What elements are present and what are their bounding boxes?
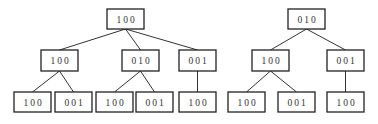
nodes: 1001000100011000011000011000101000011000… [14, 9, 364, 112]
node-label: 100 [188, 98, 208, 108]
tree-edge [33, 71, 60, 92]
node-label: 100 [50, 56, 70, 66]
node-label: 010 [131, 56, 151, 66]
tree-node: 100 [179, 92, 216, 112]
tree-node: 100 [228, 92, 265, 112]
node-label: 100 [336, 98, 356, 108]
tree-node: 001 [55, 92, 92, 112]
tree-node: 100 [107, 9, 144, 29]
tree-edge [60, 71, 74, 92]
tree-node: 100 [14, 92, 51, 112]
tree-node: 010 [288, 9, 325, 29]
node-label: 100 [105, 98, 125, 108]
tree-node: 100 [41, 50, 78, 71]
tree-diagram: 1001000100011000011000011000101000011000… [0, 0, 378, 124]
tree-node: 001 [327, 50, 364, 71]
tree-edge [126, 29, 198, 50]
node-label: 100 [116, 15, 136, 25]
node-label: 100 [237, 98, 257, 108]
node-label: 010 [297, 15, 317, 25]
tree-edge [141, 71, 155, 92]
tree-edge [115, 71, 141, 92]
node-label: 100 [23, 98, 43, 108]
node-label: 001 [287, 98, 307, 108]
node-label: 001 [145, 98, 165, 108]
node-label: 001 [64, 98, 84, 108]
tree-edge [271, 71, 297, 92]
tree-node: 010 [122, 50, 159, 71]
tree-node: 100 [252, 50, 289, 71]
node-label: 001 [336, 56, 356, 66]
tree-node: 100 [327, 92, 364, 112]
tree-edge [271, 29, 307, 50]
tree-edge [307, 29, 346, 50]
tree-edge [60, 29, 126, 50]
tree-node: 100 [96, 92, 133, 112]
tree-edge [126, 29, 141, 50]
tree-edge [247, 71, 271, 92]
tree-node: 001 [179, 50, 216, 71]
tree-node: 001 [278, 92, 315, 112]
node-label: 100 [261, 56, 281, 66]
tree-node: 001 [136, 92, 173, 112]
node-label: 001 [188, 56, 208, 66]
